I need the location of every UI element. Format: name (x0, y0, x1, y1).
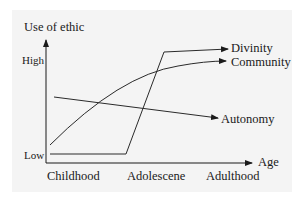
y-axis-title: Use of ethic (24, 21, 84, 34)
legend-autonomy: Autonomy (221, 113, 274, 126)
x-axis-title: Age (258, 156, 279, 169)
community-curve (50, 61, 226, 145)
divinity-line (50, 49, 228, 154)
legend-divinity: Divinity (231, 42, 273, 55)
x-tick-adolescence: Adolescene (127, 170, 185, 183)
x-tick-adulthood: Adulthood (206, 170, 259, 183)
autonomy-line (54, 97, 218, 118)
legend-community: Community (231, 56, 291, 69)
y-axis-high-label: High (22, 55, 44, 66)
figure-frame: Use of ethic High Low Childhood Adolesce… (0, 0, 306, 200)
x-tick-childhood: Childhood (47, 170, 100, 183)
y-axis-low-label: Low (24, 150, 44, 161)
